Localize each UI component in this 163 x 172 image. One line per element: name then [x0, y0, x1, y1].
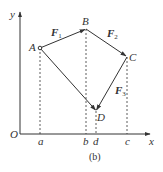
vector-f1 [40, 30, 85, 49]
vector-f2 [86, 29, 126, 56]
point-a-marker [38, 46, 42, 50]
projection-lines [40, 29, 127, 134]
tick-label-b: b [83, 135, 89, 147]
vector-f2-subscript: 2 [114, 33, 118, 41]
origin-label: O [10, 128, 18, 140]
vector-resultant [40, 48, 96, 110]
figure-caption: (b) [89, 151, 101, 163]
point-label-c: C [129, 51, 137, 63]
point-label-a: A [28, 41, 36, 53]
vector-label-f3: F3 [114, 84, 126, 98]
vector-f3-subscript: 3 [122, 90, 126, 98]
x-axis-label: x [148, 135, 154, 147]
tick-label-d: d [93, 135, 99, 147]
vector-f3 [97, 57, 128, 110]
vector-label-f1: F1 [50, 26, 62, 40]
vector-projection-diagram: A B C D F1 F2 F3 O x y a b d c (b) [0, 0, 163, 172]
point-label-d: D [96, 111, 105, 123]
vector-label-f2: F2 [106, 27, 118, 41]
y-axis-label: y [9, 8, 15, 20]
tick-label-a: a [38, 135, 44, 147]
point-label-b: B [82, 15, 89, 27]
tick-label-c: c [125, 135, 130, 147]
vector-f1-subscript: 1 [58, 32, 62, 40]
